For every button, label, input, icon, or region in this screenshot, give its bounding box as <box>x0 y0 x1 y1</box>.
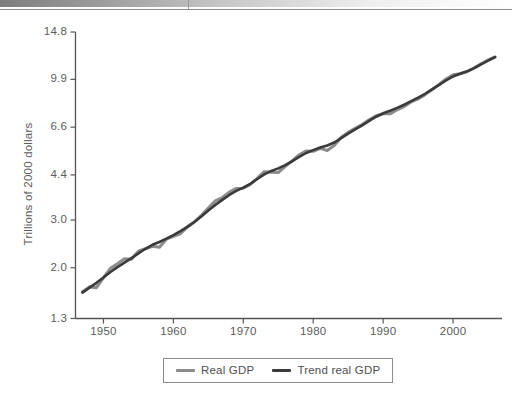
legend-label-real-gdp: Real GDP <box>201 364 254 376</box>
x-tick-label: 1990 <box>353 325 413 337</box>
y-tick-label-wrap: 4.4 <box>31 168 67 182</box>
series-line-real-gdp <box>82 57 495 292</box>
chart-axes <box>76 32 503 319</box>
y-tick-label-wrap: 6.6 <box>31 120 67 134</box>
x-tick-label-wrap: 1950 <box>73 325 133 341</box>
legend-swatch-real-gdp <box>176 369 195 372</box>
x-tick-label-wrap: 1980 <box>283 325 343 341</box>
x-axis-tick-marks <box>103 319 453 324</box>
y-tick-label-wrap: 2.0 <box>31 261 67 275</box>
decorative-gradient-bar <box>0 0 512 7</box>
y-tick-label-wrap: 9.9 <box>31 72 67 86</box>
x-tick-label-wrap: 1990 <box>353 325 413 341</box>
y-tick-label-wrap: 3.0 <box>31 213 67 227</box>
y-axis-tick-marks <box>71 32 76 319</box>
y-tick-label-wrap: 1.3 <box>31 312 67 326</box>
legend-label-trend-real-gdp: Trend real GDP <box>297 364 380 376</box>
y-axis-title: Trillions of 2000 dollars <box>22 79 34 289</box>
x-tick-label-wrap: 1970 <box>213 325 273 341</box>
gdp-line-chart: 14.89.96.64.43.02.01.3 19501960197019801… <box>0 10 512 395</box>
legend-item-real-gdp[interactable]: Real GDP <box>176 364 254 376</box>
legend-item-trend-real-gdp[interactable]: Trend real GDP <box>272 364 380 376</box>
chart-legend: Real GDP Trend real GDP <box>163 358 393 383</box>
y-tick-label: 6.6 <box>31 120 67 132</box>
y-tick-label: 1.3 <box>31 312 67 324</box>
y-tick-label: 3.0 <box>31 213 67 225</box>
y-tick-label: 9.9 <box>31 72 67 84</box>
x-tick-label: 1970 <box>213 325 273 337</box>
y-tick-label-wrap: 14.8 <box>31 25 67 39</box>
x-tick-label: 1980 <box>283 325 343 337</box>
x-tick-label: 1950 <box>73 325 133 337</box>
y-tick-label: 2.0 <box>31 261 67 273</box>
y-tick-label: 14.8 <box>31 25 67 37</box>
x-tick-label-wrap: 2000 <box>423 325 483 341</box>
y-tick-label: 4.4 <box>31 168 67 180</box>
legend-swatch-trend-real-gdp <box>272 369 291 372</box>
x-tick-label-wrap: 1960 <box>143 325 203 341</box>
header-divider-tick <box>188 0 189 9</box>
x-tick-label: 2000 <box>423 325 483 337</box>
x-tick-label: 1960 <box>143 325 203 337</box>
series-line-trend-real-gdp <box>82 57 495 292</box>
